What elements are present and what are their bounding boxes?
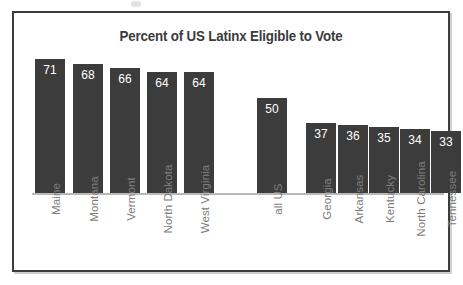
bar-value-label: 71 [35, 63, 65, 77]
x-tick-label: Maine [50, 183, 62, 215]
bar-rect: 68 [73, 64, 103, 193]
bar-value-label: 37 [306, 127, 336, 141]
x-tick-vermont: Vermont [110, 197, 140, 275]
bar-value-label: 64 [184, 76, 214, 90]
x-tick-north-dakota: North Dakota [147, 197, 177, 275]
bar-value-label: 50 [257, 102, 287, 116]
bar-rect: 71 [35, 59, 65, 193]
x-tick-label: all US [272, 183, 284, 214]
x-tick-label: North Dakota [162, 165, 174, 234]
x-tick-georgia: Georgia [306, 197, 336, 275]
bar-rect: 50 [257, 98, 287, 193]
chart-title: Percent of US Latinx Eligible to Vote [44, 27, 417, 45]
bar-value-label: 36 [338, 129, 368, 143]
bar-value-label: 64 [147, 76, 177, 90]
scan-artifact [131, 1, 141, 7]
bar-value-label: 68 [73, 68, 103, 82]
bar-montana: 68 [73, 64, 103, 193]
bar-rect: 66 [110, 68, 140, 193]
chart-frame: Percent of US Latinx Eligible to Vote 71… [12, 11, 450, 272]
x-tick-label: Arkansas [353, 175, 365, 224]
x-tick-label: Kentucky [384, 175, 396, 223]
x-tick-label: Georgia [321, 178, 333, 220]
x-tick-label: Vermont [125, 177, 137, 221]
x-tick-arkansas: Arkansas [338, 197, 368, 275]
bar-value-label: 66 [110, 72, 140, 86]
x-tick-all-us: all US [257, 197, 287, 275]
x-tick-label: Montana [88, 176, 100, 221]
bar-value-label: 34 [400, 133, 430, 147]
bar-all-us: 50 [257, 98, 287, 193]
plot-area: 7168666464503736353433 MaineMontanaVermo… [32, 51, 438, 262]
x-tick-label: Tennessee [446, 171, 458, 228]
x-tick-maine: Maine [35, 197, 65, 275]
x-tick-montana: Montana [73, 197, 103, 275]
bar-value-label: 35 [369, 131, 399, 145]
bar-value-label: 33 [431, 135, 461, 149]
bar-maine: 71 [35, 59, 65, 193]
bar-vermont: 66 [110, 68, 140, 193]
x-tick-tennessee: Tennessee [431, 197, 461, 275]
x-tick-north-carolina: North Carolina [400, 197, 430, 275]
x-tick-label: North Carolina [415, 161, 427, 237]
x-tick-label: West Virginia [199, 165, 211, 234]
x-tick-west-virginia: West Virginia [184, 197, 214, 275]
bar-series: 7168666464503736353433 [32, 51, 444, 193]
x-tick-kentucky: Kentucky [369, 197, 399, 275]
x-axis-labels: MaineMontanaVermontNorth DakotaWest Virg… [32, 197, 444, 275]
